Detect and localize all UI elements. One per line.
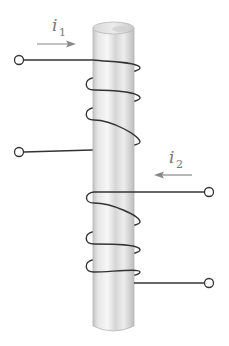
diagram-canvas: i 1 i 2	[0, 0, 229, 346]
arrow-right-icon	[37, 41, 76, 48]
svg-text:1: 1	[59, 26, 66, 39]
current-i2-label: i 2	[169, 147, 183, 171]
arrow-left-icon	[154, 172, 192, 179]
terminal-2b[interactable]	[205, 279, 214, 288]
terminal-1a[interactable]	[15, 56, 24, 65]
svg-text:i: i	[52, 15, 57, 35]
terminal-1b[interactable]	[15, 148, 24, 157]
svg-text:i: i	[169, 147, 174, 167]
terminal-2a[interactable]	[205, 188, 214, 197]
cylindrical-core	[93, 22, 134, 331]
current-i1-label: i 1	[52, 15, 66, 39]
svg-text:2: 2	[176, 158, 183, 171]
